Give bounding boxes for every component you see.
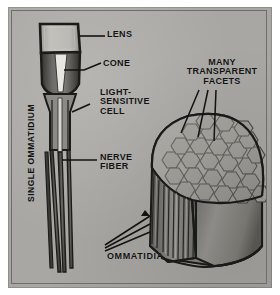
compound-eye-diagram (150, 114, 269, 267)
nerve-fiber-shape (45, 150, 73, 272)
leader-ommatidia-arrow (141, 210, 150, 216)
label-light-sensitive-cell: LIGHT- SENSITIVE CELL (100, 88, 150, 116)
label-many-transparent-facets: MANY TRANSPARENT FACETS (176, 58, 268, 86)
label-single-ommatidium: SINGLE OMMATIDIUM (26, 98, 36, 208)
label-nerve-fiber: NERVE FIBER (100, 153, 132, 172)
figure-root: LENS CONE LIGHT- SENSITIVE CELL NERVE FI… (0, 0, 280, 295)
label-lens: LENS (107, 30, 132, 39)
label-cone: CONE (103, 59, 130, 68)
leader-ommatidia-1 (105, 216, 150, 245)
leader-light-sensitive-cell (72, 104, 90, 112)
ommatidium-diagram (40, 24, 80, 272)
label-ommatidia: OMMATIDIA (107, 252, 164, 261)
leader-ommatidia-2 (105, 224, 150, 248)
